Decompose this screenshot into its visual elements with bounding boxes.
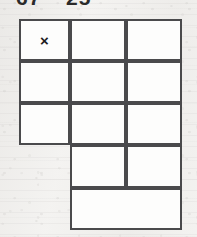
cell-r1c3[interactable] bbox=[126, 19, 182, 61]
cell-content-empty bbox=[21, 63, 68, 101]
cell-r1c2[interactable] bbox=[70, 19, 126, 61]
cell-r2c2[interactable] bbox=[70, 61, 126, 103]
cell-content-empty bbox=[72, 105, 124, 143]
cell-r1c1[interactable]: × bbox=[19, 19, 70, 61]
cell-r4c3[interactable] bbox=[126, 145, 182, 188]
cell-content-empty bbox=[72, 21, 124, 59]
cell-r3c1[interactable] bbox=[19, 103, 70, 145]
x-mark-icon: × bbox=[21, 21, 68, 59]
cell-r3c3[interactable] bbox=[126, 103, 182, 145]
cell-content-empty bbox=[128, 105, 180, 143]
cell-r5-merged[interactable] bbox=[70, 188, 182, 230]
cell-content-empty bbox=[128, 147, 180, 186]
cell-r2c3[interactable] bbox=[126, 61, 182, 103]
cell-content-empty bbox=[128, 63, 180, 101]
cell-r3c2[interactable] bbox=[70, 103, 126, 145]
cell-content-empty bbox=[72, 63, 124, 101]
cell-content-empty bbox=[128, 21, 180, 59]
grid-figure: × bbox=[0, 0, 197, 237]
cell-content-empty bbox=[21, 105, 68, 143]
cell-content-empty bbox=[72, 147, 124, 186]
cell-content-empty bbox=[72, 190, 180, 228]
cell-r2c1[interactable] bbox=[19, 61, 70, 103]
cell-r4c2[interactable] bbox=[70, 145, 126, 188]
